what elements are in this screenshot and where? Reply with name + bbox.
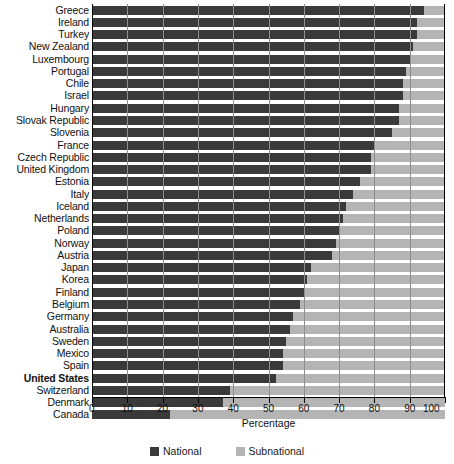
- chart-row: Estonia: [0, 176, 454, 188]
- axis-tick-label: 0: [89, 403, 95, 415]
- bar-subnational: [92, 91, 445, 100]
- bar-national: [92, 153, 371, 162]
- category-label: Chile: [0, 78, 92, 89]
- bar-national: [92, 263, 311, 272]
- chart-row: Chile: [0, 78, 454, 90]
- bar-subnational: [92, 128, 445, 137]
- bar-national: [92, 226, 339, 235]
- bar-national: [92, 165, 371, 174]
- bar-national: [92, 361, 283, 370]
- category-label: Japan: [0, 262, 92, 273]
- chart-legend: NationalSubnational: [0, 445, 454, 457]
- bar-subnational: [92, 374, 445, 383]
- chart-row: Netherlands: [0, 213, 454, 225]
- bar-national: [92, 55, 410, 64]
- chart-row: Finland: [0, 286, 454, 298]
- bar-subnational: [92, 165, 445, 174]
- axis-tick: [445, 398, 446, 403]
- category-label: Korea: [0, 274, 92, 285]
- bar-subnational: [92, 153, 445, 162]
- bar-subnational: [92, 214, 445, 223]
- category-label: Sweden: [0, 336, 92, 347]
- legend-item: National: [150, 445, 202, 457]
- category-label: Portugal: [0, 66, 92, 77]
- category-label: Austria: [0, 250, 92, 261]
- bar-subnational: [92, 177, 445, 186]
- bar-national: [92, 18, 417, 27]
- bar-subnational: [92, 116, 445, 125]
- bar-subnational: [92, 79, 445, 88]
- category-label: France: [0, 140, 92, 151]
- legend-swatch-icon: [236, 447, 245, 456]
- bar-national: [92, 325, 290, 334]
- category-label: Australia: [0, 324, 92, 335]
- bar-subnational: [92, 275, 445, 284]
- category-label: Luxembourg: [0, 54, 92, 65]
- category-label: Estonia: [0, 176, 92, 187]
- bar-national: [92, 337, 286, 346]
- chart-row: France: [0, 139, 454, 151]
- category-label: Hungary: [0, 103, 92, 114]
- axis-tick-label: 40: [216, 403, 250, 415]
- axis-tick-label: 80: [357, 403, 391, 415]
- legend-swatch-icon: [150, 447, 159, 456]
- category-label: Belgium: [0, 299, 92, 310]
- category-label: New Zealand: [0, 41, 92, 52]
- category-label: Slovak Republic: [0, 115, 92, 126]
- bar-national: [92, 79, 403, 88]
- category-label: Ireland: [0, 17, 92, 28]
- category-label: United States: [0, 373, 92, 384]
- category-label: Slovenia: [0, 127, 92, 138]
- bar-national: [92, 190, 353, 199]
- axis-tick-label: 70: [322, 403, 356, 415]
- bar-subnational: [92, 55, 445, 64]
- chart-row: Slovenia: [0, 127, 454, 139]
- chart-row: Sweden: [0, 335, 454, 347]
- axis-tick-label: 50: [252, 403, 286, 415]
- bar-subnational: [92, 239, 445, 248]
- bar-subnational: [92, 349, 445, 358]
- bar-subnational: [92, 104, 445, 113]
- category-label: Iceland: [0, 201, 92, 212]
- bar-subnational: [92, 226, 445, 235]
- bar-national: [92, 202, 346, 211]
- axis-tick-label: 20: [146, 403, 180, 415]
- bar-national: [92, 30, 417, 39]
- category-label: Czech Republic: [0, 152, 92, 163]
- category-label: Germany: [0, 311, 92, 322]
- x-axis-title: Percentage: [92, 417, 445, 429]
- bar-national: [92, 6, 424, 15]
- axis-tick-label: 30: [181, 403, 215, 415]
- bar-subnational: [92, 300, 445, 309]
- category-label: Denmark: [0, 397, 92, 408]
- bar-national: [92, 300, 300, 309]
- bar-national: [92, 91, 403, 100]
- bar-national: [92, 349, 283, 358]
- bar-subnational: [92, 67, 445, 76]
- bar-national: [92, 104, 399, 113]
- category-label: Turkey: [0, 29, 92, 40]
- category-label: Mexico: [0, 348, 92, 359]
- category-label: Switzerland: [0, 385, 92, 396]
- chart-row: Switzerland: [0, 384, 454, 396]
- bar-national: [92, 116, 399, 125]
- axis-tick-label: 10: [110, 403, 144, 415]
- bar-subnational: [92, 325, 445, 334]
- bar-national: [92, 214, 343, 223]
- bar-national: [92, 239, 336, 248]
- bar-subnational: [92, 288, 445, 297]
- bar-subnational: [92, 190, 445, 199]
- chart-row: Israel: [0, 90, 454, 102]
- chart-row: Belgium: [0, 298, 454, 310]
- bar-subnational: [92, 386, 445, 395]
- category-label: Netherlands: [0, 213, 92, 224]
- axis-tick-label: 100: [423, 403, 440, 415]
- chart-row: Turkey: [0, 29, 454, 41]
- stacked-bar-chart: GreeceIrelandTurkeyNew ZealandLuxembourg…: [0, 0, 454, 464]
- chart-row: Spain: [0, 360, 454, 372]
- bar-subnational: [92, 202, 445, 211]
- chart-row: Australia: [0, 323, 454, 335]
- chart-row: Ireland: [0, 16, 454, 28]
- chart-row: Portugal: [0, 65, 454, 77]
- chart-row: Czech Republic: [0, 151, 454, 163]
